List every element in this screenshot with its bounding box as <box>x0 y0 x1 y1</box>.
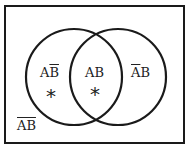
label-not-a-b-plain: B <box>140 65 150 80</box>
marker-a-not-b: * <box>46 86 56 106</box>
label-universe-overlined: AB <box>17 118 36 133</box>
label-a-not-b-overlined: B <box>49 65 59 80</box>
marker-a-and-b: * <box>90 84 100 104</box>
label-a-and-b: AB <box>85 66 104 79</box>
label-not-a-b: AB <box>131 66 150 79</box>
label-a-not-b-plain: A <box>40 65 49 80</box>
label-universe-complement: AB <box>17 119 36 132</box>
label-a-not-b: AB <box>40 66 59 79</box>
label-a-and-b-plain: AB <box>85 65 104 80</box>
label-not-a-b-overlined: A <box>131 65 140 80</box>
